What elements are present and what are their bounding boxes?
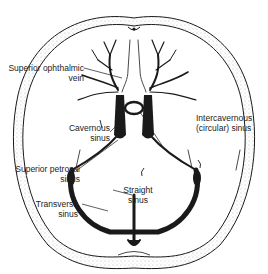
label-intercavernous-sinus: Intercavernous (circular) sinus xyxy=(196,113,252,133)
label-superior-petrosal-sinus: Superior petrosal sinus xyxy=(4,164,80,184)
venous-sinus-diagram xyxy=(0,0,268,274)
label-cavernous-sinus: Cavernous sinus xyxy=(64,123,110,143)
label-straight-sinus: Straight sinus xyxy=(118,185,158,205)
label-superior-ophthalmic-vein: Superior ophthalmic vein xyxy=(4,63,84,83)
label-transverse-sinus: Transverse sinus xyxy=(20,199,78,219)
